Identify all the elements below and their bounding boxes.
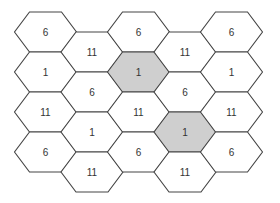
hex-cell-label: 11 bbox=[226, 107, 237, 118]
hex-cell-label: 6 bbox=[43, 27, 49, 38]
hex-cell-label: 6 bbox=[182, 87, 188, 98]
hex-cell-label: 11 bbox=[133, 107, 144, 118]
hex-cell-label: 1 bbox=[182, 127, 188, 138]
hex-cell-label: 1 bbox=[89, 127, 95, 138]
hex-cell-diagram: 611161161116111611611161116 bbox=[0, 0, 280, 203]
hex-cell-label: 11 bbox=[180, 167, 191, 178]
hex-cell-label: 11 bbox=[40, 107, 51, 118]
hex-cell-label: 6 bbox=[136, 147, 142, 158]
hex-cell-label: 6 bbox=[136, 27, 142, 38]
hex-cell-label: 6 bbox=[43, 147, 49, 158]
hex-cell-label: 11 bbox=[87, 167, 98, 178]
hex-cell-label: 11 bbox=[180, 47, 191, 58]
hex-cell-label: 6 bbox=[89, 87, 95, 98]
hex-cell-label: 6 bbox=[229, 27, 235, 38]
hex-cell-label: 1 bbox=[229, 67, 235, 78]
hex-cell-label: 1 bbox=[43, 67, 49, 78]
hex-cell-label: 11 bbox=[87, 47, 98, 58]
hex-cell-label: 1 bbox=[136, 67, 142, 78]
hex-cell-label: 6 bbox=[229, 147, 235, 158]
